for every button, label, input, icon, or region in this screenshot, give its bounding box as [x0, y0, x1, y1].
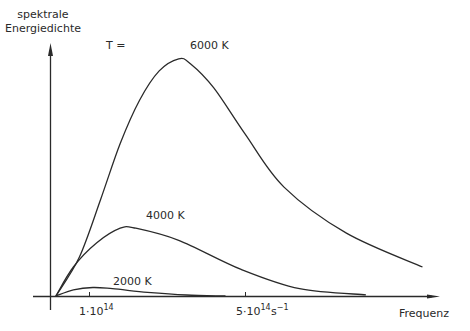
tick1-mantissa: 1·10 — [79, 305, 104, 318]
y-axis-arrow-icon — [48, 43, 53, 56]
tick1-exponent: 14 — [104, 303, 114, 312]
label-2000k: 2000 K — [113, 276, 152, 288]
curve-2000k — [56, 287, 226, 296]
curve-4000k — [56, 227, 366, 296]
tick5-exponent: 14 — [261, 303, 271, 312]
x-unit-label: s−1 — [271, 306, 289, 318]
planck-radiation-chart — [0, 0, 470, 331]
y-axis-label-line1: spektrale — [5, 8, 81, 22]
x-axis-arrow-icon — [427, 295, 440, 299]
label-6000k: 6000 K — [190, 40, 229, 52]
curve-6000k — [56, 58, 423, 296]
label-4000k: 4000 K — [146, 210, 185, 222]
y-axis-label: spektrale Energiedichte — [5, 8, 81, 36]
y-axis-label-line2: Energiedichte — [5, 22, 81, 36]
x-tick-label-5e14: 5·1014 — [236, 306, 271, 318]
x-tick-label-1e14: 1·1014 — [79, 306, 114, 318]
x-axis-label: Frequenz — [399, 308, 449, 320]
tick5-mantissa: 5·10 — [236, 305, 261, 318]
unit-exponent: −1 — [277, 303, 289, 312]
temperature-prefix: T = — [106, 40, 125, 52]
